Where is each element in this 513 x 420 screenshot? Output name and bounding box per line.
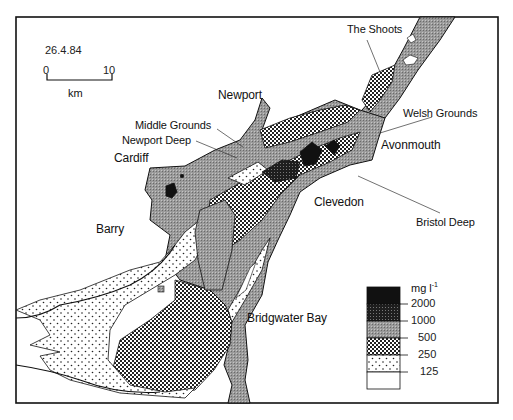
label-barry: Barry <box>96 222 124 236</box>
label-clevedon: Clevedon <box>314 195 364 209</box>
label-newport-deep: Newport Deep <box>122 134 191 146</box>
label-cardiff: Cardiff <box>114 151 148 165</box>
label-avonmouth: Avonmouth <box>381 138 441 152</box>
scale-start: 0 <box>43 64 49 76</box>
label-bristol-deep: Bristol Deep <box>416 216 475 228</box>
legend-break-1000: 1000 <box>411 314 435 326</box>
scale-end: 10 <box>103 64 115 76</box>
legend-break-500: 500 <box>418 331 436 343</box>
label-welsh-grounds: Welsh Grounds <box>403 107 477 119</box>
survey-date: 26.4.84 <box>45 44 82 56</box>
legend-unit: mg l-1 <box>411 281 438 294</box>
label-middle-grounds: Middle Grounds <box>135 119 211 131</box>
legend-break-2000: 2000 <box>411 297 435 309</box>
label-newport: Newport <box>218 88 262 102</box>
label-the-shoots: The Shoots <box>347 23 402 35</box>
label-bridgwater-bay: Bridgwater Bay <box>247 311 327 325</box>
legend-break-125: 125 <box>420 365 438 377</box>
scale-unit: km <box>68 87 83 99</box>
legend-break-250: 250 <box>418 348 436 360</box>
